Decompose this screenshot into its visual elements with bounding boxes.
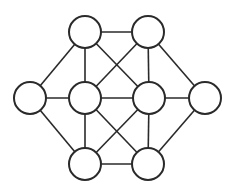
node-BL — [69, 148, 101, 180]
graph-diagram — [0, 0, 239, 192]
node-BR — [132, 148, 164, 180]
node-TL — [69, 16, 101, 48]
node-R — [189, 82, 221, 114]
node-MR — [133, 82, 165, 114]
node-ML — [69, 82, 101, 114]
node-L — [14, 82, 46, 114]
node-TR — [132, 16, 164, 48]
edges-group — [30, 32, 205, 164]
